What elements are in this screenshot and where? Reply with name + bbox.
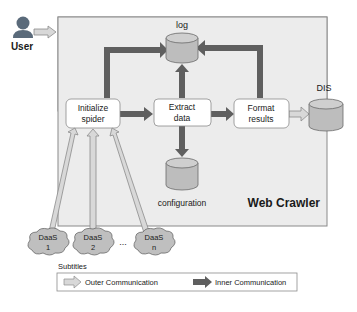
web-crawler-title: Web Crawler: [248, 196, 321, 210]
legend-outer-label: Outer Communication: [85, 278, 158, 287]
svg-text:Initialize: Initialize: [78, 103, 109, 113]
svg-text:Format: Format: [248, 103, 276, 113]
node-extract-data[interactable]: Extract data: [154, 99, 211, 126]
svg-text:Extract: Extract: [169, 102, 196, 112]
user-outer-arrow: [34, 26, 56, 38]
svg-text:1: 1: [46, 243, 50, 252]
svg-text:spider: spider: [81, 114, 104, 124]
daas-cloud-1[interactable]: DaaS 1: [28, 228, 69, 255]
db-log-label: log: [176, 20, 188, 30]
svg-text:data: data: [174, 113, 191, 123]
svg-text:DaaS: DaaS: [145, 233, 164, 242]
node-format-results[interactable]: Format results: [234, 99, 289, 128]
daas-ellipsis: ...: [119, 237, 127, 247]
svg-text:DaaS: DaaS: [84, 233, 103, 242]
svg-text:n: n: [152, 243, 156, 252]
daas-cloud-n[interactable]: DaaS n: [134, 228, 175, 255]
legend-title: Subtitles: [58, 262, 87, 271]
db-configuration: [166, 158, 198, 190]
svg-text:results: results: [248, 114, 273, 124]
db-dis-label: DIS: [316, 83, 331, 93]
db-log: [166, 33, 198, 63]
db-dis: [309, 99, 343, 131]
web-crawler-diagram: User Initialize spider Extract data Form…: [0, 0, 357, 312]
svg-text:DaaS: DaaS: [39, 233, 58, 242]
user-label: User: [11, 41, 33, 52]
user-icon: [13, 17, 33, 39]
daas-cloud-2[interactable]: DaaS 2: [73, 228, 114, 255]
db-configuration-label: configuration: [158, 198, 207, 208]
svg-text:2: 2: [91, 243, 95, 252]
legend-inner-label: Inner Communication: [215, 278, 286, 287]
node-initialize-spider[interactable]: Initialize spider: [66, 99, 120, 128]
